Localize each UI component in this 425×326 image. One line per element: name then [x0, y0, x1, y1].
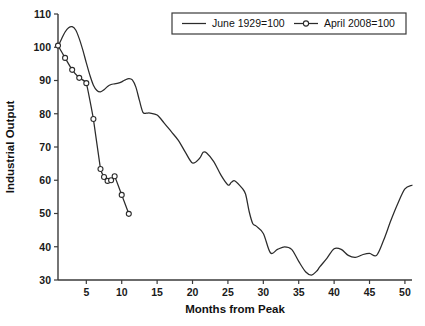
chart-canvas: 30405060708090100110 5101520253035404550…: [0, 0, 425, 326]
data-point-marker: [70, 67, 75, 72]
data-point-marker: [126, 211, 131, 216]
data-point-marker: [91, 117, 96, 122]
y-tick-label: 50: [39, 207, 51, 219]
x-tick-label: 20: [187, 286, 199, 298]
x-tick-label: 45: [364, 286, 376, 298]
legend-label: June 1929=100: [212, 17, 285, 29]
chart-legend: June 1929=100April 2008=100: [172, 13, 406, 34]
data-point-marker: [56, 43, 61, 48]
legend-label: April 2008=100: [324, 17, 395, 29]
y-tick-label: 90: [39, 74, 51, 86]
x-tick-label: 50: [399, 286, 411, 298]
data-point-marker: [98, 166, 103, 171]
y-axis-title: Industrial Output: [4, 101, 16, 194]
data-point-marker: [112, 174, 117, 179]
x-tick-label: 35: [293, 286, 305, 298]
industrial-output-line-chart: 30405060708090100110 5101520253035404550…: [0, 0, 425, 326]
x-axis-title: Months from Peak: [185, 303, 285, 315]
data-point-marker: [63, 55, 68, 60]
x-tick-label: 25: [222, 286, 234, 298]
x-tick-label: 40: [328, 286, 340, 298]
chart-background: [0, 0, 425, 326]
data-point-marker: [84, 81, 89, 86]
y-tick-label: 70: [39, 141, 51, 153]
data-point-marker: [119, 192, 124, 197]
x-tick-label: 30: [257, 286, 269, 298]
y-tick-label: 110: [34, 8, 51, 20]
y-tick-label: 80: [39, 108, 51, 120]
y-tick-label: 40: [39, 241, 51, 253]
x-tick-label: 15: [151, 286, 163, 298]
y-tick-label: 60: [39, 174, 51, 186]
legend-swatch-marker: [303, 21, 308, 26]
data-point-marker: [77, 75, 82, 80]
x-tick-label: 5: [83, 286, 89, 298]
x-tick-label: 10: [116, 286, 128, 298]
y-tick-label: 100: [33, 41, 51, 53]
y-tick-label: 30: [39, 274, 51, 286]
